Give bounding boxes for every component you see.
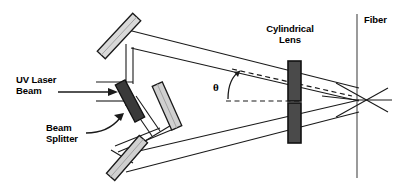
beam-splitter-label: Beam Splitter bbox=[46, 122, 78, 144]
theta-symbol-label: θ bbox=[213, 81, 219, 93]
bottom-mirror bbox=[106, 136, 147, 181]
cylindrical-lens-lower bbox=[288, 103, 301, 143]
beam-splitter-pointer-arrow bbox=[86, 113, 124, 133]
theta-angle-arrow bbox=[228, 71, 240, 99]
right-mirror bbox=[152, 82, 182, 130]
diagram-canvas bbox=[0, 0, 418, 191]
fiber-label: Fiber bbox=[364, 14, 387, 25]
cylindrical-lens-label: Cylindrical Lens bbox=[252, 23, 328, 45]
lower-beam-rays bbox=[126, 100, 359, 172]
uv-input-arrow bbox=[58, 88, 118, 96]
optical-diagram: UV Laser Beam Beam Splitter Cylindrical … bbox=[0, 0, 418, 191]
cylindrical-lens-upper bbox=[288, 61, 301, 101]
uv-laser-beam-label: UV Laser Beam bbox=[16, 74, 56, 96]
top-mirror bbox=[97, 13, 141, 59]
